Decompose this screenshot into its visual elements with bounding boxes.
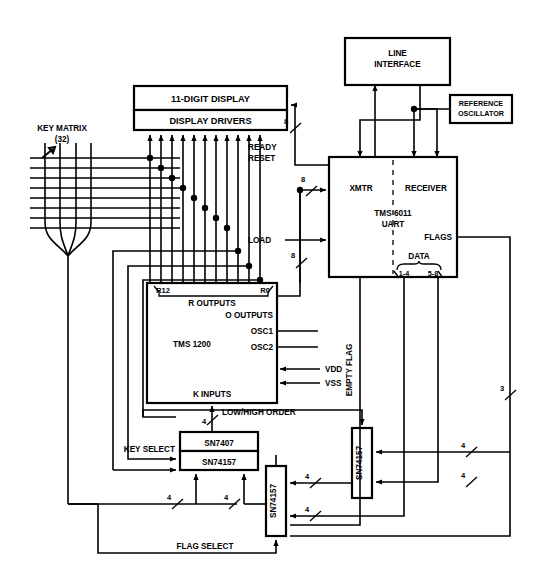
junction-dot-4 <box>180 185 186 191</box>
key-matrix-label: KEY MATRIX <box>37 124 87 133</box>
reset-label: RESET <box>248 154 275 163</box>
xmtr-bus-width: 8 <box>301 175 305 184</box>
uart-part-label-2: UART <box>382 220 405 229</box>
flags-wire <box>290 237 510 536</box>
sn74157-a-group: SN74157 <box>180 451 258 470</box>
tms1200-k-inputs-label: K INPUTS <box>193 390 232 399</box>
sn7407-label: SN7407 <box>204 439 234 448</box>
sn74157-a-in-1-width: 4 <box>167 493 172 502</box>
flags-bus-width: 3 <box>500 384 504 393</box>
display-bus-width: 8 <box>284 117 288 126</box>
junction-dot-8 <box>224 225 230 231</box>
sn74157-c-group: SN74157 <box>352 428 372 498</box>
xmtr-bus-slash <box>306 186 317 196</box>
k-inputs-width: 4 <box>202 417 207 426</box>
mux-b-input-bus: 4 <box>290 472 352 488</box>
mux-b-in1-width: 4 <box>305 472 310 481</box>
junction-dot-1 <box>147 155 153 161</box>
junction-dot-3 <box>169 175 175 181</box>
tms1200-r12-label: R12 <box>156 286 170 295</box>
empty-flag-label: EMPTY FLAG <box>345 344 354 397</box>
junction-dot-2 <box>158 165 164 171</box>
empty-flag-group: EMPTY FLAG <box>290 277 360 525</box>
sn74157-b-group: SN74157 <box>266 466 286 536</box>
display-drivers-label: DISPLAY DRIVERS <box>169 116 251 126</box>
flag-select-group: FLAG SELECT <box>98 504 276 553</box>
tms1200-r0-label: R0 <box>260 286 270 295</box>
osc-to-uart-b <box>414 109 437 157</box>
tms1200-osc1-label: OSC1 <box>251 327 274 336</box>
xmtr-input-bus: 8 <box>277 175 326 296</box>
line-interface-label-2: INTERFACE <box>374 60 421 69</box>
flags-bus: 3 <box>290 237 516 536</box>
uart-data-high-label: 5-8 <box>428 269 438 278</box>
vss-label: VSS <box>325 379 342 388</box>
uart-flags-label: FLAGS <box>424 233 452 242</box>
line-interface-to-uart <box>360 85 420 157</box>
tms1200-group: TMS 1200 R12 R0 R OUTPUTS O OUTPUTS OSC1… <box>147 283 342 403</box>
sn7407-group: SN7407 <box>180 432 258 451</box>
uart-part-label-1: TMS 6011 <box>374 209 412 218</box>
ready-reset-wire <box>291 105 329 165</box>
reference-oscillator-label-2: OSCILLATOR <box>458 109 505 118</box>
load-bus-slash <box>296 258 307 268</box>
display-group: 11-DIGIT DISPLAY DISPLAY DRIVERS <box>134 86 287 130</box>
mux-c-inputs: 4 4 <box>376 278 510 487</box>
empty-flag-wire <box>290 277 360 525</box>
line-interface-bus <box>360 85 420 157</box>
tms1200-o-outputs-label: O OUTPUTS <box>225 311 273 320</box>
block-diagram-canvas: KEY MATRIX (32) 11-DIGIT DISPLAY DISPLAY… <box>0 0 541 578</box>
uart-xmtr-label: XMTR <box>349 184 372 193</box>
flag-select-label: FLAG SELECT <box>177 542 234 551</box>
mux-c-in2-slash <box>466 477 477 487</box>
reference-oscillator-bus <box>411 106 450 157</box>
mux-c-in2-width: 4 <box>461 471 466 480</box>
display-label: 11-DIGIT DISPLAY <box>171 94 250 104</box>
uart-group: XMTR RECEIVER TMS 6011 UART FLAGS DATA 1… <box>329 157 457 278</box>
mux-b-input-2: 4 <box>290 278 404 521</box>
line-interface-label-1: LINE <box>388 49 407 58</box>
mux-b-in2-width: 4 <box>305 505 310 514</box>
line-interface-group: LINE INTERFACE <box>345 38 450 85</box>
reference-oscillator-group: REFERENCE OSCILLATOR <box>450 95 512 123</box>
reference-oscillator-label-1: REFERENCE <box>459 99 504 108</box>
uart-data-label: DATA <box>408 252 430 261</box>
load-label: LOAD <box>248 236 271 245</box>
key-bundle-1 <box>45 222 68 256</box>
mux-c-in1-width: 4 <box>461 441 466 450</box>
key-select-label: KEY SELECT <box>124 445 175 454</box>
ready-label: READY <box>248 143 277 152</box>
tms1200-part-label: TMS 1200 <box>173 340 211 349</box>
vdd-label: VDD <box>325 365 342 374</box>
uart-data-low-label: 1-4 <box>399 269 409 278</box>
tms1200-osc2-label: OSC2 <box>251 343 274 352</box>
key-matrix-count: (32) <box>55 135 70 144</box>
tms1200-r-outputs-label: R OUTPUTS <box>188 299 236 308</box>
sn74157-a-label: SN74157 <box>202 458 237 467</box>
junction-dot-7 <box>213 215 219 221</box>
o-outputs-to-xmtr <box>277 190 326 296</box>
junction-dot-5 <box>191 195 197 201</box>
uart-receiver-label: RECEIVER <box>405 184 447 193</box>
load-bus-width: 8 <box>291 251 295 260</box>
sn74157-b-label: SN74157 <box>269 483 278 518</box>
junction-dot-6 <box>202 205 208 211</box>
key-bundle-4 <box>68 222 91 256</box>
sn74157-a-in-2-width: 4 <box>224 493 229 502</box>
